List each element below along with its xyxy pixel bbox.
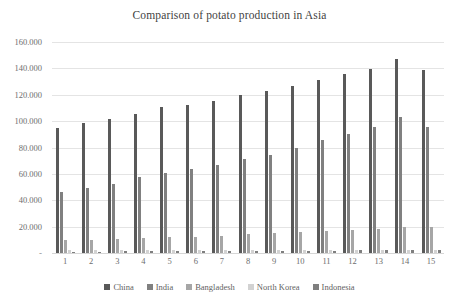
legend-item[interactable]: Indonesia (313, 282, 355, 292)
legend-item[interactable]: India (147, 282, 173, 292)
bar (377, 229, 380, 253)
bar (395, 59, 398, 253)
y-axis-tick-label: 40.000 (19, 195, 42, 205)
y-axis-tick-label: 160.000 (14, 37, 42, 47)
bar (72, 252, 75, 253)
bar (120, 250, 123, 253)
bar (239, 95, 242, 253)
bar (124, 251, 127, 253)
bar (168, 237, 171, 253)
bar (160, 107, 163, 253)
bar (142, 238, 145, 253)
legend-swatch-icon (248, 284, 254, 290)
legend-item[interactable]: Bangladesh (186, 282, 235, 292)
bar (351, 230, 354, 253)
bar (216, 165, 219, 253)
legend-label: Indonesia (322, 282, 355, 292)
x-axis-tick-label: 6 (183, 256, 209, 272)
bar (150, 251, 153, 253)
bar (68, 250, 71, 253)
bar (146, 250, 149, 253)
bar-group (287, 42, 313, 253)
bar (86, 188, 89, 253)
x-axis-tick-label: 13 (366, 256, 392, 272)
x-axis-tick-label: 9 (261, 256, 287, 272)
gridline (52, 253, 444, 254)
bar (355, 250, 358, 253)
bar (172, 250, 175, 253)
x-axis-tick-label: 5 (157, 256, 183, 272)
bar-group (340, 42, 366, 253)
bar (116, 239, 119, 253)
bar (212, 101, 215, 253)
y-axis: 160.000140.000120.000100.00080.00060.000… (0, 42, 48, 253)
bars-layer (52, 42, 444, 253)
bar (373, 127, 376, 253)
bar (359, 250, 362, 253)
bar (251, 250, 254, 253)
bar (399, 117, 402, 253)
bar (426, 127, 429, 253)
bar-group (366, 42, 392, 253)
bar (369, 69, 372, 253)
bar (321, 140, 324, 253)
bar (108, 119, 111, 253)
bar (98, 252, 101, 253)
x-axis-tick-label: 12 (340, 256, 366, 272)
y-axis-tick-label: 120.000 (14, 90, 42, 100)
bar (430, 227, 433, 253)
x-axis-tick-label: 3 (104, 256, 130, 272)
bar (138, 177, 141, 253)
bar (176, 251, 179, 253)
bar (198, 250, 201, 253)
bar (94, 250, 97, 253)
bar (228, 251, 231, 253)
legend-item[interactable]: China (104, 282, 133, 292)
x-axis-tick-label: 7 (209, 256, 235, 272)
y-axis-tick-label: 80.000 (19, 143, 42, 153)
bar (403, 227, 406, 253)
bar-group (235, 42, 261, 253)
bar (273, 233, 276, 253)
bar-group (78, 42, 104, 253)
bar (407, 250, 410, 253)
bar-group (157, 42, 183, 253)
bar-group (261, 42, 287, 253)
bar (112, 184, 115, 253)
bar (434, 250, 437, 253)
x-axis-tick-label: 10 (287, 256, 313, 272)
bar (265, 91, 268, 253)
bar (303, 250, 306, 253)
bar-chart: Comparison of potato production in Asia … (0, 0, 459, 306)
bar (202, 251, 205, 253)
bar (381, 250, 384, 253)
bar (347, 134, 350, 253)
x-axis-tick-label: 15 (418, 256, 444, 272)
bar (60, 192, 63, 253)
bar-group (392, 42, 418, 253)
bar (224, 250, 227, 253)
bar (243, 159, 246, 253)
bar (411, 250, 414, 253)
bar (90, 240, 93, 253)
legend-item[interactable]: North Korea (248, 282, 300, 292)
bar (82, 123, 85, 253)
y-axis-tick-label: 140.000 (14, 63, 42, 73)
x-axis-tick-label: 8 (235, 256, 261, 272)
x-axis-tick-label: 11 (313, 256, 339, 272)
bar (438, 250, 441, 253)
x-axis-tick-label: 2 (78, 256, 104, 272)
bar (220, 236, 223, 253)
bar (269, 155, 272, 253)
chart-legend: ChinaIndiaBangladeshNorth KoreaIndonesia (0, 282, 459, 292)
bar (56, 128, 59, 253)
bar (190, 169, 193, 253)
bar-group (183, 42, 209, 253)
bar (64, 240, 67, 253)
plot-area (52, 42, 444, 253)
x-axis-tick-label: 14 (392, 256, 418, 272)
bar (333, 251, 336, 254)
bar (186, 105, 189, 253)
bar-group (418, 42, 444, 253)
chart-title: Comparison of potato production in Asia (0, 9, 459, 21)
